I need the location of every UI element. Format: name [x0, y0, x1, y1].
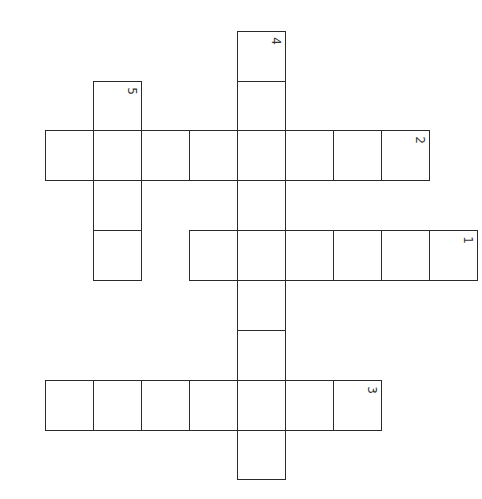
- crossword-cell[interactable]: [45, 130, 94, 181]
- crossword-cell[interactable]: 2: [381, 130, 430, 181]
- crossword-cell[interactable]: [189, 130, 238, 181]
- crossword-grid: 12345: [0, 0, 482, 499]
- clue-number: 1: [462, 236, 474, 244]
- clue-number: 3: [366, 386, 378, 394]
- crossword-cell[interactable]: [93, 180, 142, 231]
- crossword-cell[interactable]: [141, 380, 190, 431]
- crossword-cell[interactable]: [237, 280, 286, 331]
- clue-number: 5: [126, 87, 138, 95]
- crossword-cell[interactable]: [285, 130, 334, 181]
- crossword-cell[interactable]: [333, 230, 382, 281]
- crossword-cell[interactable]: [237, 230, 286, 281]
- crossword-cell[interactable]: [93, 230, 142, 281]
- crossword-cell[interactable]: [189, 230, 238, 281]
- crossword-cell[interactable]: [237, 430, 286, 480]
- crossword-cell[interactable]: [285, 230, 334, 281]
- crossword-cell[interactable]: 4: [237, 31, 286, 82]
- crossword-cell[interactable]: [45, 380, 94, 431]
- crossword-cell[interactable]: [333, 130, 382, 181]
- clue-number: 2: [414, 136, 426, 144]
- crossword-cell[interactable]: [381, 230, 430, 281]
- crossword-cell[interactable]: [237, 130, 286, 181]
- crossword-cell[interactable]: [93, 130, 142, 181]
- crossword-cell[interactable]: [189, 380, 238, 431]
- crossword-cell[interactable]: [237, 380, 286, 431]
- crossword-cell[interactable]: [285, 380, 334, 431]
- crossword-cell[interactable]: 3: [333, 380, 382, 431]
- crossword-cell[interactable]: [237, 81, 286, 131]
- clue-number: 4: [270, 37, 282, 45]
- crossword-cell[interactable]: 5: [93, 81, 142, 131]
- crossword-cell[interactable]: [237, 330, 286, 381]
- crossword-cell[interactable]: [141, 130, 190, 181]
- crossword-cell[interactable]: 1: [429, 230, 478, 281]
- crossword-cell[interactable]: [93, 380, 142, 431]
- crossword-cell[interactable]: [237, 180, 286, 231]
